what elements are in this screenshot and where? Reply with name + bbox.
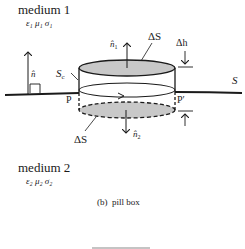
delta-s-top-label: ΔS <box>148 30 161 42</box>
point-p-label: P <box>66 94 72 105</box>
bottom-dashed-face <box>79 102 175 118</box>
contour-ellipse <box>79 83 175 97</box>
normal-2-label: n̂2 <box>133 129 141 140</box>
medium-2-params: ε₂ μ₂ σ₂ <box>26 176 52 186</box>
point-p-prime-label: P′ <box>177 94 185 105</box>
delta-h-label: Δh <box>176 37 187 48</box>
surface-line-right <box>175 92 242 93</box>
contour-leader-line <box>71 73 78 80</box>
delta-s-top-leader <box>141 43 152 61</box>
delta-s-bottom-leader <box>85 117 96 131</box>
medium-1-params: ε₁ μ₁ σ₁ <box>26 18 52 28</box>
caption: (b) pill box <box>97 197 140 207</box>
normal-label: n̂ <box>31 69 36 79</box>
normal-1-label: n̂1 <box>110 39 118 50</box>
contour-surface-label: Sc <box>56 67 65 81</box>
pill-box-diagram: medium 1 ε₁ μ₁ σ₁ n̂ Sc S n̂1 ΔS Δh P P′… <box>0 0 245 249</box>
surface-label: S <box>232 74 238 86</box>
medium-1-label: medium 1 <box>18 2 70 17</box>
delta-s-bottom-label: ΔS <box>74 133 87 145</box>
medium-2-label: medium 2 <box>18 160 70 175</box>
right-angle-icon <box>30 84 40 93</box>
